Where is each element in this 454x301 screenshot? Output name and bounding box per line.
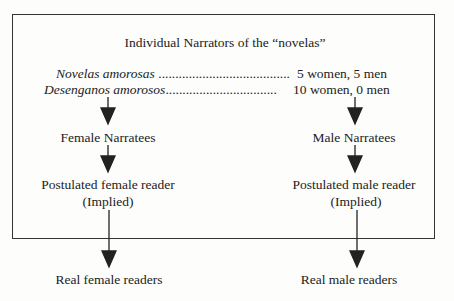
row-value: 10 women, 0 men (293, 83, 390, 97)
row-novelas: Novelas amorosas .......................… (56, 67, 290, 81)
diagram-title: Individual Narrators of the “novelas” (125, 36, 326, 50)
postulated-female-reader: Postulated female reader (41, 178, 174, 192)
real-male-readers: Real male readers (301, 273, 398, 287)
row-label: Desenganos amorosos (44, 82, 165, 97)
row-desenganos: Desenganos amorosos.....................… (44, 83, 277, 97)
row-value: 5 women, 5 men (297, 67, 387, 81)
row-dots: ....................................... (155, 66, 290, 81)
male-implied: (Implied) (331, 195, 382, 209)
female-implied: (Implied) (83, 195, 134, 209)
row-label: Novelas amorosas (56, 66, 155, 81)
row-dots: ................................. (165, 82, 276, 97)
female-narratees: Female Narratees (61, 131, 156, 145)
real-female-readers: Real female readers (55, 273, 162, 287)
postulated-male-reader: Postulated male reader (293, 178, 416, 192)
male-narratees: Male Narratees (313, 131, 396, 145)
